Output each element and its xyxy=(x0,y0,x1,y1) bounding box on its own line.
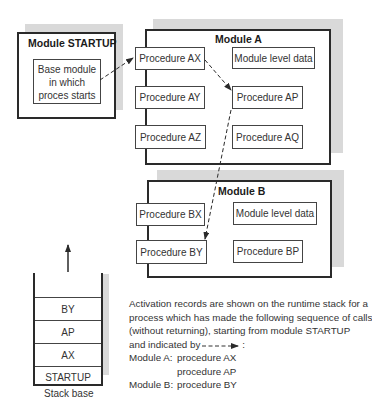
call-procedure-1: procedure AX xyxy=(177,352,236,363)
stack-record-ap: AP xyxy=(35,320,101,343)
stack-record-startup: STARTUP xyxy=(35,366,101,388)
call-module-1: Module A: xyxy=(129,351,177,365)
stack-record-ax: AX xyxy=(35,343,101,366)
caption-line4: and indicated by: xyxy=(129,338,372,352)
stack-record-by: BY xyxy=(35,297,101,320)
stack-shadow xyxy=(102,274,109,375)
arrow-ap-to-by xyxy=(205,110,231,239)
caption: Activation records are shown on the runt… xyxy=(129,297,372,392)
call-row-1: Module A:procedure AX xyxy=(129,351,372,365)
caption-line2: process which has made the following seq… xyxy=(129,311,372,325)
caption-line4-suffix: : xyxy=(242,339,245,350)
stack-base-label: Stack base xyxy=(44,387,93,401)
caption-line4-text: and indicated by xyxy=(129,339,200,350)
caption-line1: Activation records are shown on the runt… xyxy=(129,297,372,311)
arrow-ax-to-ap xyxy=(205,60,231,90)
call-module-3: Module B: xyxy=(129,378,177,392)
call-row-3: Module B:procedure BY xyxy=(129,378,372,392)
call-row-2: procedure AP xyxy=(129,365,372,379)
call-procedure-3: procedure BY xyxy=(177,379,237,390)
call-procedure-2: procedure AP xyxy=(177,366,236,377)
stack-records: BY AP AX STARTUP xyxy=(35,297,101,388)
caption-line3: (without returning), starting from modul… xyxy=(129,324,372,338)
arrow-startup-to-ax xyxy=(100,58,133,80)
stack-right-wall xyxy=(101,273,103,386)
